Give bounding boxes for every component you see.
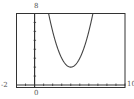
axis-ticks: [17, 22, 126, 86]
graph-plot: [0, 0, 134, 99]
x-max-label: 10: [127, 81, 134, 88]
origin-label: 0: [34, 90, 38, 97]
viewing-window-frame: [17, 14, 126, 88]
x-min-label: -2: [1, 82, 8, 89]
axes: [17, 14, 126, 88]
parabola-curve: [49, 14, 93, 67]
y-max-label: 8: [34, 3, 38, 10]
